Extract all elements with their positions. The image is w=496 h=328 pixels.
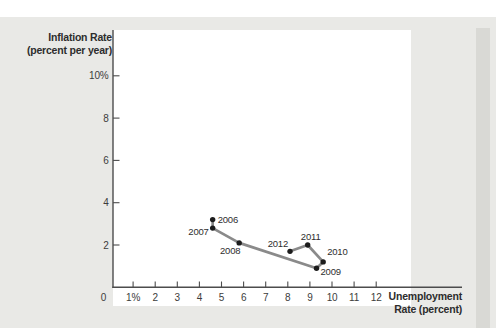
y-tick-label: 6 [103,155,109,166]
data-point-2011 [305,242,310,247]
x-tick-label: 10 [327,292,338,303]
year-label-2008: 2008 [220,245,240,256]
y-tick-label: 8 [103,113,109,124]
year-label-2011: 2011 [301,231,321,242]
year-label-2007: 2007 [188,226,208,237]
x-tick-label: 4 [197,292,203,303]
x-tick-label: 5 [219,292,225,303]
year-label-2012: 2012 [268,238,288,249]
data-point-2007 [210,225,215,230]
origin-label: 0 [101,292,107,303]
x-tick-label: 11 [349,292,360,303]
y-tick-label: 2 [103,240,109,251]
x-tick-label: 8 [285,292,291,303]
figure-page: Inflation Rate (percent per year) Unempl… [0,0,496,328]
year-label-2009: 2009 [321,266,341,277]
data-point-2009 [314,266,319,271]
x-tick-label: 3 [175,292,181,303]
x-tick-label: 12 [371,292,382,303]
x-tick-label: 1% [126,292,140,303]
x-tick-label: 2 [153,292,159,303]
data-point-2010 [320,259,325,264]
x-tick-label: 9 [307,292,313,303]
data-point-2006 [210,217,215,222]
y-tick-label: 10% [89,70,109,81]
x-tick-label: 7 [263,292,269,303]
data-point-2012 [287,249,292,254]
y-tick-label: 4 [103,197,109,208]
phillips-curve-chart: 1%234567891011120246810%2006200720082009… [0,0,496,328]
year-label-2010: 2010 [327,246,347,257]
x-tick-label: 6 [241,292,247,303]
year-label-2006: 2006 [218,214,238,225]
